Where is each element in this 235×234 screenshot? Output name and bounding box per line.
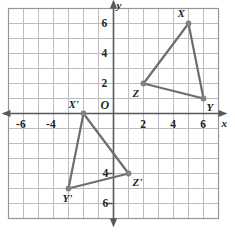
vertex-label-Y-prime: Y' <box>63 193 73 204</box>
vertex-point-Y-prime <box>66 186 72 192</box>
vertex-point-Z-prime <box>126 171 132 177</box>
vertex-label-Z-prime: Z' <box>133 177 143 188</box>
y-tick-label-4: 4 <box>102 48 108 60</box>
x-tick-label-4: 4 <box>170 119 176 131</box>
vertex-point-X <box>186 21 192 27</box>
vertex-label-Z: Z <box>133 88 140 99</box>
graph-canvas <box>0 0 235 234</box>
x-tick-label-6: 6 <box>200 119 206 131</box>
x-axis-arrow-left <box>2 110 11 117</box>
y-tick-label-6: 6 <box>102 18 108 30</box>
y-tick-label-neg4: 4 <box>103 168 109 180</box>
origin-label: O <box>101 99 110 111</box>
coordinate-plane: -6-424664246yxOXYZX'Y'Z' <box>0 0 235 234</box>
vertex-label-Y: Y <box>207 102 214 113</box>
x-tick-label--4: -4 <box>46 119 56 131</box>
x-axis-name: x <box>222 118 228 129</box>
x-tick-label-2: 2 <box>140 119 146 131</box>
vertex-point-X-prime <box>81 111 87 117</box>
vertex-point-Z <box>141 81 147 87</box>
y-tick-label-neg6: 6 <box>103 198 109 210</box>
vertex-label-X-prime: X' <box>69 99 79 110</box>
vertex-label-X: X <box>178 8 185 19</box>
y-tick-label-2: 2 <box>102 78 108 90</box>
x-tick-label--6: -6 <box>16 119 26 131</box>
y-axis-name: y <box>117 0 122 11</box>
y-axis-arrow-down <box>110 219 117 228</box>
